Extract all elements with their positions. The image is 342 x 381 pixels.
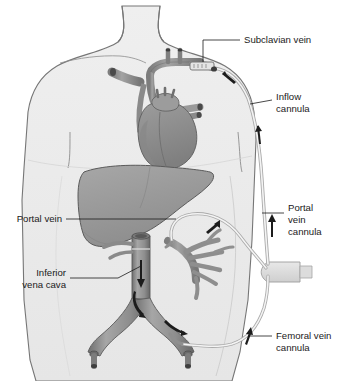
label-subclavian-vein: Subclavian vein (244, 34, 311, 45)
arrow-ivc-down (140, 260, 142, 282)
left-femoral-lumen (91, 364, 97, 368)
label-portal-vein-cannula-line1: Portal (288, 202, 313, 213)
label-portal-vein-cannula-line2: vein (288, 214, 306, 225)
pump-outlet (300, 266, 312, 278)
label-inferior-vena-cava-line2: vena cava (22, 279, 66, 290)
pulmonary-lumen-left (110, 68, 116, 76)
medical-diagram: Subclavian vein Inflow cannula Portal ve… (0, 0, 342, 381)
pulmonary-lumen-right-2 (197, 112, 202, 118)
label-inflow-cannula-line1: Inflow (276, 91, 301, 102)
subclavian-hub (190, 62, 217, 72)
vessel-lumen-1 (166, 49, 171, 52)
label-portal-vein-cannula-line3: cannula (288, 226, 322, 237)
label-inflow-cannula-line2: cannula (276, 103, 310, 114)
label-femoral-vein-cannula-line1: Femoral vein (276, 330, 331, 341)
label-portal-vein: Portal vein (17, 213, 62, 224)
right-femoral-lumen (185, 364, 191, 368)
hub-connector (211, 66, 217, 71)
label-inferior-vena-cava-line1: Inferior (36, 267, 67, 278)
diagram-canvas: Subclavian vein Inflow cannula Portal ve… (0, 0, 342, 381)
mesenteric-branch-5 (196, 278, 198, 298)
label-femoral-vein-cannula-line2: cannula (276, 342, 310, 353)
vessel-lumen-2 (178, 49, 183, 52)
pulmonary-lumen-right-1 (197, 104, 202, 111)
ivc-lumen-inner (135, 234, 147, 238)
